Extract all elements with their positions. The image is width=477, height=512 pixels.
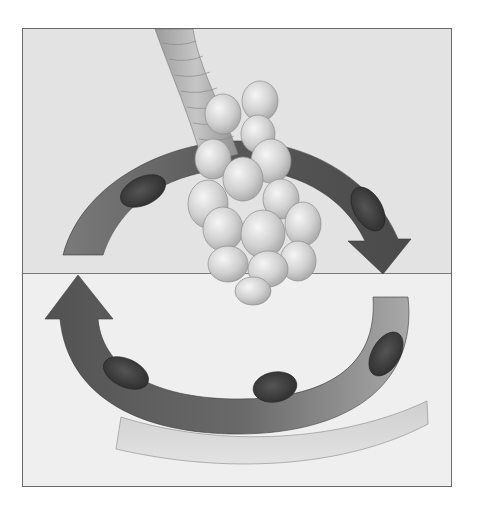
alveoli-cluster	[188, 81, 321, 305]
diagram-frame	[22, 28, 452, 487]
diagram-artwork	[23, 29, 452, 487]
tissue-blood-capillary	[45, 275, 409, 434]
